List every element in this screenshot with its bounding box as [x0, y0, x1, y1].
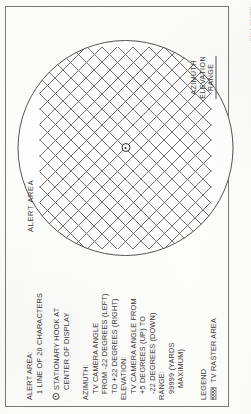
scope-readout-elevation: ELEVATION	[198, 56, 207, 99]
annotation-alert-area: ALERT AREA:1 LINE OF 20 CHARACTERS	[24, 293, 43, 400]
annotation-stationary-hook: STATIONARY HOOK ATCENTER OF DISPLAY	[51, 308, 70, 400]
annotation-elevation: ELEVATION:TV CAMERA ANGLE FROM+5 DEGREES…	[118, 298, 156, 400]
azimuth-line-3: TO +22 DEGREES (RIGHT)	[109, 293, 119, 400]
hook-line-1: STATIONARY HOOK AT	[51, 308, 61, 390]
alert-area-heading: ALERT AREA:	[24, 293, 34, 400]
annotation-range: RANGE:99999 (YARDSMAXIMUM)	[156, 342, 185, 400]
range-line-1: 99999 (YARDS	[166, 342, 176, 400]
elevation-line-1: TV CAMERA ANGLE FROM	[128, 298, 138, 400]
azimuth-heading: AZIMUTH:	[80, 293, 90, 400]
elevation-line-2: +5 DEGREES (UP) TO	[137, 298, 147, 400]
azimuth-line-1: TV CAMERA ANGLE	[90, 293, 100, 400]
legend-heading: LEGEND	[198, 318, 208, 400]
hook-line-2: CENTER OF DISPLAY	[61, 308, 71, 390]
scope-alert-area-label: ALERT AREA	[25, 180, 34, 232]
scope-readout-labels: AZIMUTH ELEVATION RANGE	[189, 56, 216, 99]
elevation-heading: ELEVATION:	[118, 298, 128, 400]
elevation-line-3: -22 DEGREES (DOWN)	[147, 298, 157, 400]
scope-readout-range: RANGE	[206, 56, 216, 99]
annotation-azimuth: AZIMUTH:TV CAMERA ANGLEFROM -22 DEGREES …	[80, 293, 118, 400]
rotated-content-layer: ALERT AREA:1 LINE OF 20 CHARACTERS STATI…	[0, 0, 251, 414]
alert-area-line-1: 1 LINE OF 20 CHARACTERS	[34, 293, 44, 400]
circular-display-diagram: ALERT AREA AZIMUTH ELEVATION RANGE	[17, 40, 233, 256]
range-line-2: MAXIMUM)	[175, 342, 185, 400]
range-heading: RANGE:	[156, 342, 166, 400]
azimuth-line-2: FROM -22 DEGREES (LEFT)	[99, 293, 109, 400]
scanned-page: ALERT AREA:1 LINE OF 20 CHARACTERS STATI…	[0, 0, 251, 414]
legend-hatch-swatch-icon	[210, 387, 216, 400]
scope-readout-azimuth: AZIMUTH	[189, 56, 198, 99]
figure-id-code: PAC-1-11CX0115	[249, 6, 251, 41]
